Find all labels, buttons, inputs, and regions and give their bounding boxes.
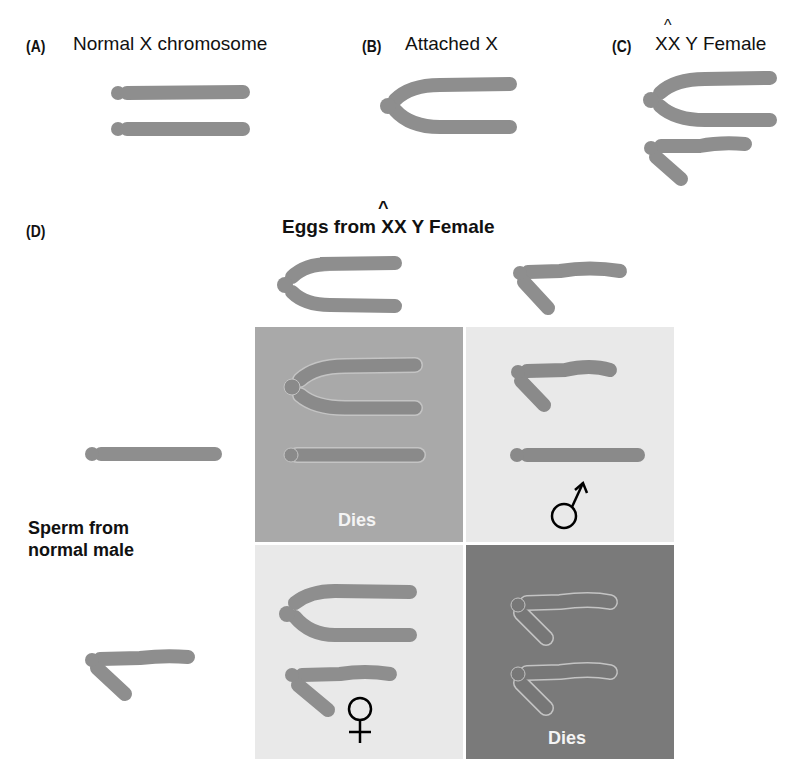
outcome-dies-label: Dies bbox=[548, 728, 586, 749]
female-symbol-icon bbox=[345, 696, 385, 756]
cell-chromosomes bbox=[0, 0, 806, 773]
outcome-dies-label: Dies bbox=[338, 510, 376, 531]
male-symbol-icon bbox=[546, 478, 606, 538]
